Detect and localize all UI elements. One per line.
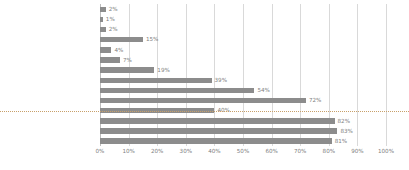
bar bbox=[100, 27, 106, 32]
bar-chart: 全医療機関2%無床診療所1%有床診療所2%病院15%20-1004%100-19… bbox=[0, 0, 409, 170]
gridline-100% bbox=[386, 4, 387, 146]
x-tick-label: 70% bbox=[294, 148, 306, 154]
x-axis: 0%10%20%30%40%50%60%70%80%90%100% bbox=[100, 148, 386, 164]
bar bbox=[100, 78, 212, 83]
x-tick-label: 30% bbox=[180, 148, 192, 154]
bar bbox=[100, 47, 111, 52]
bar bbox=[100, 98, 306, 103]
bar bbox=[100, 7, 106, 12]
bar bbox=[100, 88, 254, 93]
bar-value-label: 81% bbox=[335, 136, 347, 147]
x-tick-label: 0% bbox=[96, 148, 105, 154]
x-tick-label: 90% bbox=[351, 148, 363, 154]
section-separator bbox=[0, 111, 409, 112]
bar bbox=[100, 118, 335, 123]
plot-area: 全医療機関2%無床診療所1%有床診療所2%病院15%20-1004%100-19… bbox=[100, 4, 386, 146]
bar bbox=[100, 17, 103, 22]
bar-row: 特定機能病院81% bbox=[100, 136, 386, 147]
x-tick-label: 100% bbox=[378, 148, 394, 154]
x-tick-label: 10% bbox=[122, 148, 134, 154]
x-tick-label: 80% bbox=[323, 148, 335, 154]
x-tick-label: 50% bbox=[237, 148, 249, 154]
bar bbox=[100, 128, 337, 133]
bar bbox=[100, 57, 120, 62]
bar bbox=[100, 37, 143, 42]
bar bbox=[100, 67, 154, 72]
bar bbox=[100, 138, 332, 143]
x-tick-label: 40% bbox=[208, 148, 220, 154]
x-tick-label: 60% bbox=[265, 148, 277, 154]
x-tick-label: 20% bbox=[151, 148, 163, 154]
